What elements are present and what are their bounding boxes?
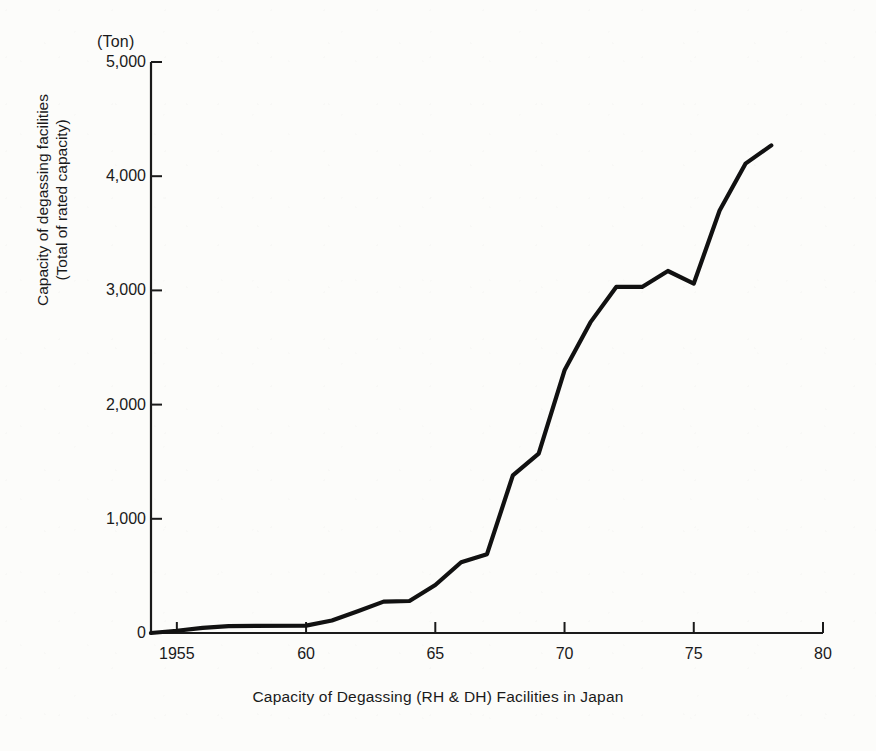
y-axis-tick-label: 4,000 [84, 167, 146, 185]
x-axis-tick-label: 75 [654, 645, 734, 663]
series-line [151, 145, 771, 633]
axis-spine [151, 62, 823, 633]
y-axis-tick-label: 5,000 [84, 53, 146, 71]
x-axis-tick-label: 70 [525, 645, 605, 663]
chart-figure: (Ton) Capacity of degassing facilities (… [0, 0, 876, 751]
y-axis-tick-label: 0 [84, 624, 146, 642]
x-axis-title: Capacity of Degassing (RH & DH) Faciliti… [0, 688, 876, 706]
y-axis-tick-label: 2,000 [84, 396, 146, 414]
y-axis-tick-label: 1,000 [84, 510, 146, 528]
x-axis-tick-label: 80 [783, 645, 863, 663]
x-axis-tick-label: 65 [395, 645, 475, 663]
x-axis-tick-label: 60 [266, 645, 346, 663]
y-axis-tick-label: 3,000 [84, 281, 146, 299]
x-axis-tick-label: 1955 [137, 645, 217, 663]
axis-lines [151, 62, 823, 633]
axis-ticks [151, 62, 823, 633]
data-series-layer [151, 145, 771, 633]
